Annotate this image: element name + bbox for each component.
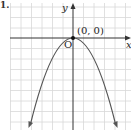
x-axis-label: x [126,39,131,50]
vertex-label: (0, 0) [77,25,104,36]
y-axis-label: y [62,2,68,13]
origin-label: O [64,39,72,50]
grid [10,3,131,130]
graph [0,0,131,130]
y-axis-arrow-icon [71,3,76,9]
